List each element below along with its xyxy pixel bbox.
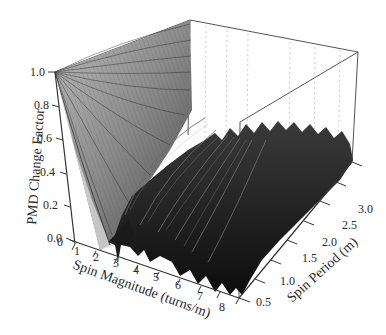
x-tick-label: 2 <box>93 250 99 264</box>
y-tick-label: 2.0 <box>322 235 337 249</box>
x-tick-label: 1 <box>74 244 80 258</box>
y-tick-label: 3.0 <box>358 202 373 216</box>
x-tick-label: 8 <box>219 300 225 314</box>
x-tick-label: 6 <box>175 278 181 292</box>
x-tick-label: 3 <box>113 256 119 270</box>
y-tick-label: 2.5 <box>342 218 357 232</box>
z-tick-label: 1.0 <box>30 65 45 79</box>
x-tick-label: 0 <box>57 235 63 249</box>
x-tick-label: 5 <box>153 270 159 284</box>
z-tick-label: 0.2 <box>43 198 58 212</box>
surface-plot-3d: 1.0 0.8 0.6 0.4 0.2 0.0 PMD Change Facto… <box>0 0 386 335</box>
y-tick-label: 1.5 <box>302 251 317 265</box>
x-tick-label: 4 <box>133 263 139 277</box>
y-tick-label: 0.5 <box>256 295 271 309</box>
